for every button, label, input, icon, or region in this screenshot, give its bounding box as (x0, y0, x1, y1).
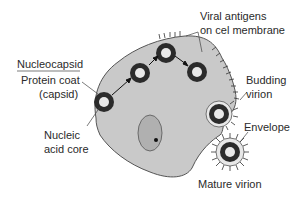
label-nucleic: Nucleic (44, 129, 80, 142)
label-envelope: Envelope (244, 121, 290, 134)
label-cell-membrane: on cel membrane (200, 24, 285, 37)
label-capsid: (capsid) (39, 88, 78, 101)
label-protein-coat: Protein coat (21, 74, 80, 87)
label-nucleocapsid: Nucleocapsid (17, 58, 83, 71)
label-virion: virion (246, 88, 272, 101)
label-viral-antigens: Viral antigens (200, 10, 266, 23)
label-acid-core: acid core (44, 143, 89, 156)
mature-virion (211, 133, 249, 171)
label-budding: Budding (246, 74, 286, 87)
nucleus (138, 115, 162, 151)
label-mature-virion: Mature virion (198, 178, 262, 191)
